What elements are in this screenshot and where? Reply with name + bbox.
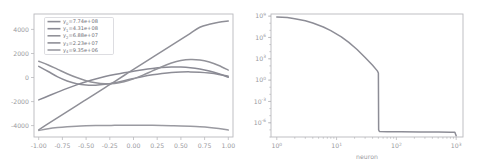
right-y-tick-labels: 10910610310010-310-6	[254, 12, 266, 126]
right-loglog-chart-panel: 10910610310010-310-6 100101102103 neuron	[243, 0, 486, 167]
left-xtick-label-7: 0.75	[198, 142, 212, 149]
left-xtick-label-0: -1.00	[31, 142, 47, 149]
left-ytick-label-3: -2000	[11, 98, 29, 105]
right-ytick-label-3: 100	[255, 76, 266, 83]
right-ytick-label-2: 103	[255, 54, 266, 61]
left-ytick-label-0: 4000	[13, 26, 29, 33]
right-xtick-label-3: 103	[451, 142, 462, 149]
left-xtick-label-6: 0.50	[174, 142, 188, 149]
left-xtick-label-1: -0.75	[54, 142, 70, 149]
right-plot-frame	[271, 14, 463, 137]
right-y-tickmarks	[268, 16, 271, 137]
left-line-chart-panel: 4000 2000 0 -2000 -4000 -1.00 -0.75 -0.5…	[0, 0, 243, 167]
left-xtick-label-2: -0.50	[78, 142, 94, 149]
right-ytick-label-1: 106	[255, 33, 266, 40]
right-curve-group	[277, 17, 456, 136]
right-ytick-label-5: 10-6	[254, 118, 266, 125]
right-ytick-label-0: 109	[255, 12, 266, 19]
left-xtick-label-3: -0.25	[102, 142, 118, 149]
left-ytick-label-1: 2000	[13, 50, 29, 57]
right-chart-svg: 10910610310010-310-6 100101102103 neuron	[243, 0, 486, 167]
left-xtick-label-4: 0.00	[127, 142, 141, 149]
left-ytick-label-2: 0	[25, 74, 29, 81]
right-xaxis-label: neuron	[356, 153, 378, 160]
right-xtick-label-2: 102	[391, 142, 402, 149]
right-xtick-label-0: 100	[271, 142, 282, 149]
left-curve-y4	[39, 125, 229, 130]
left-xtick-label-8: 1.00	[221, 142, 235, 149]
right-curve-singular-values	[277, 17, 456, 136]
right-ytick-label-4: 10-3	[254, 97, 266, 104]
right-x-tick-labels: 100101102103	[271, 142, 461, 149]
figure-container: 4000 2000 0 -2000 -4000 -1.00 -0.75 -0.5…	[0, 0, 486, 167]
right-xtick-label-1: 101	[331, 142, 342, 149]
left-chart-svg: 4000 2000 0 -2000 -4000 -1.00 -0.75 -0.5…	[0, 0, 243, 167]
left-xtick-label-5: 0.25	[150, 142, 164, 149]
left-chart-legend[interactable]: y0=7.74e+08y1=4.31e+08y2=6.88e+07y3=2.23…	[45, 18, 114, 55]
left-ytick-label-4: -4000	[11, 122, 29, 129]
